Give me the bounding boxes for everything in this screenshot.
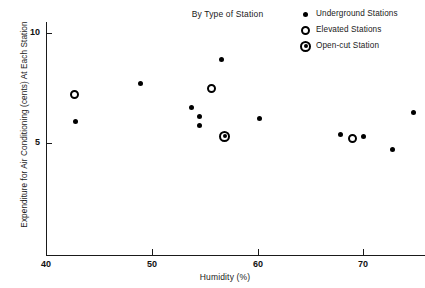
legend-marker-filled-circle-icon (296, 6, 316, 22)
legend-item-elevated[interactable]: Elevated Stations (296, 22, 424, 38)
x-axis-tick-60 (258, 249, 259, 256)
x-axis-tick-label-70: 70 (350, 259, 376, 269)
data-point-underground[interactable] (257, 116, 262, 121)
legend-label-underground: Underground Stations (316, 9, 398, 19)
data-point-underground[interactable] (390, 147, 395, 152)
y-axis-line (46, 22, 47, 256)
data-point-underground[interactable] (189, 105, 194, 110)
x-axis-tick-40 (46, 249, 47, 256)
data-point-elevated[interactable] (348, 134, 357, 143)
legend-item-underground[interactable]: Underground Stations (296, 6, 424, 22)
data-point-underground[interactable] (73, 119, 78, 124)
data-point-underground[interactable] (197, 114, 202, 119)
y-axis-tick-5 (46, 143, 52, 144)
legend-label-elevated: Elevated Stations (316, 25, 381, 35)
x-axis-tick-label-50: 50 (139, 259, 165, 269)
x-axis-label: Humidity (%) (145, 272, 305, 282)
x-axis-tick-50 (152, 249, 153, 256)
data-point-underground[interactable] (338, 132, 343, 137)
x-axis-line (46, 255, 425, 256)
y-axis-tick-10 (46, 33, 52, 34)
data-point-underground[interactable] (411, 110, 416, 115)
legend-item-open-cut[interactable]: Open-cut Station (296, 38, 424, 54)
y-axis-label: Expenditure for Air Conditioning (cents)… (20, 5, 29, 245)
data-point-underground[interactable] (197, 123, 202, 128)
legend-marker-open-circle-icon (296, 22, 316, 38)
data-point-elevated[interactable] (207, 84, 216, 93)
x-axis-tick-label-40: 40 (33, 259, 59, 269)
data-point-underground[interactable] (361, 134, 366, 139)
x-axis-tick-label-60: 60 (245, 259, 271, 269)
legend-marker-ringed-circle-icon (296, 38, 316, 54)
data-point-open-cut[interactable] (219, 131, 230, 142)
x-axis-tick-70 (363, 249, 364, 256)
data-point-elevated[interactable] (70, 90, 79, 99)
chart-title: By Type of Station (150, 9, 305, 19)
data-point-underground[interactable] (138, 81, 143, 86)
chart-legend: Underground Stations Elevated Stations O… (296, 6, 424, 54)
scatter-chart: By Type of Station Underground Stations … (0, 0, 425, 288)
legend-label-open-cut: Open-cut Station (316, 41, 379, 51)
data-point-underground[interactable] (219, 57, 224, 62)
